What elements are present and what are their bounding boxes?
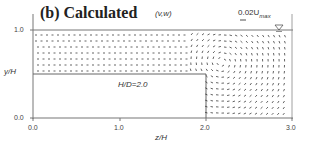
y-axis-label: y/H [4,67,16,76]
xtick-2: 2.0 [200,124,210,131]
ytick-1: 1.0 [14,26,24,33]
xtick-3: 3.0 [286,124,296,131]
x-axis-label: z/H [155,133,167,142]
xtick-1: 1.0 [114,124,124,131]
xtick-0: 0.0 [28,124,38,131]
vector-plot [0,0,310,147]
aspect-ratio-annotation: H/D=2.0 [118,80,148,89]
ytick-0: 0.0 [14,114,24,121]
